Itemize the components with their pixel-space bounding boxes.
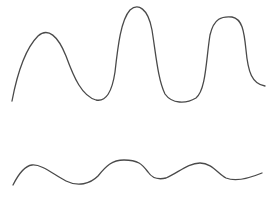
waveform-plot xyxy=(0,0,280,206)
chart-canvas xyxy=(0,0,280,206)
upper-waveform-line xyxy=(12,7,265,102)
lower-waveform-line xyxy=(13,160,262,185)
